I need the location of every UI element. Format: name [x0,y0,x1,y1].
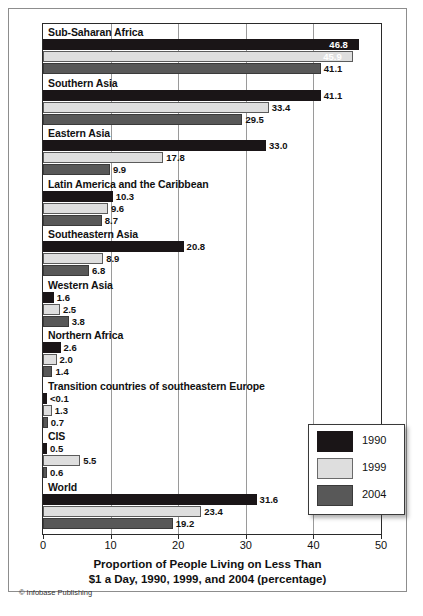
bar-row: 9.9 [43,164,381,175]
tick-label: 20 [172,539,184,551]
bar-row: 3.8 [43,316,381,327]
bar-group: Latin America and the Caribbean10.39.68.… [43,177,381,228]
bar-value-label: 41.1 [324,89,343,102]
bar-group: Northern Africa2.62.01.4 [43,328,381,379]
bar-row: 45.9 [43,51,381,62]
bar-value-label: 8.7 [105,214,118,227]
bar-1999 [43,51,353,62]
bar-2004 [43,467,47,478]
bar-value-label: 5.5 [83,454,96,467]
bar-row: 19.2 [43,518,381,529]
bar-value-label: 19.2 [176,517,195,530]
bar-value-label: 31.6 [260,493,279,506]
category-label: Southern Asia [48,76,118,90]
axis-title-line1: Proportion of People Living on Less Than [93,558,321,570]
bar-2004 [43,316,69,327]
bar-value-label: 6.8 [92,264,105,277]
bar-group: Southern Asia41.133.429.5 [43,76,381,127]
bar-row: 33.4 [43,102,381,113]
bar-row: 33.0 [43,140,381,151]
tick-label: 50 [375,539,387,551]
bar-2004 [43,518,173,529]
bar-1999 [43,102,269,113]
bar-value-label: 33.0 [269,139,288,152]
bar-1990 [43,241,184,252]
bar-row: 6.8 [43,265,381,276]
bar-value-label: 20.8 [187,240,206,253]
bar-row: 29.5 [43,114,381,125]
bar-1990 [43,393,47,404]
bar-row: 8.7 [43,215,381,226]
bar-2004 [43,366,52,377]
bar-row: <0.1 [43,393,381,404]
bar-row: 41.1 [43,90,381,101]
bar-2004 [43,164,110,175]
bar-1990 [43,39,359,50]
bar-1999 [43,455,80,466]
tick-label: 40 [307,539,319,551]
bar-row: 1.6 [43,292,381,303]
bar-value-label: 3.8 [72,315,85,328]
legend-label: 1999 [362,461,386,473]
bar-1990 [43,342,61,353]
bar-2004 [43,265,89,276]
tick-label: 0 [40,539,46,551]
category-label: Western Asia [48,278,113,292]
category-label: World [48,480,77,494]
category-label: Northern Africa [48,328,123,342]
legend-swatch [317,431,353,452]
bar-1990 [43,90,321,101]
bar-row: 17.8 [43,152,381,163]
chart-card: Sub-Saharan Africa46.845.941.1Southern A… [8,8,407,592]
bar-row: 8.9 [43,253,381,264]
category-label: CIS [48,429,65,443]
bar-1990 [43,140,266,151]
credit-text: © Infobase Publishing [19,588,92,597]
bar-row: 9.6 [43,203,381,214]
bar-1999 [43,354,57,365]
bar-1990 [43,191,113,202]
category-label: Sub-Saharan Africa [48,25,143,39]
bar-group: Western Asia1.62.53.8 [43,278,381,329]
bar-row: 1.3 [43,405,381,416]
tick-label: 30 [240,539,252,551]
bar-value-label: 1.4 [55,365,68,378]
bar-value-label: 0.6 [50,466,63,479]
legend-swatch [317,485,353,506]
bar-1990 [43,443,47,454]
bar-row: 20.8 [43,241,381,252]
axis-title-line2: $1 a Day, 1990, 1999, and 2004 (percenta… [9,572,406,587]
legend-swatch [317,458,353,479]
bar-value-label: 9.9 [113,163,126,176]
x-axis: 01020304050 [42,535,382,555]
category-label: Southeastern Asia [48,227,138,241]
axis-title: Proportion of People Living on Less Than… [9,557,406,587]
bar-1999 [43,253,103,264]
bar-2004 [43,417,48,428]
bar-group: Transition countries of southeastern Eur… [43,379,381,430]
plot-area: Sub-Saharan Africa46.845.941.1Southern A… [42,23,382,535]
bar-value-label: 0.5 [50,442,63,455]
bar-value-label: 29.5 [245,113,264,126]
legend-label: 1990 [362,434,386,446]
chart-page: Sub-Saharan Africa46.845.941.1Southern A… [0,0,423,616]
bar-value-label: 8.9 [106,252,119,265]
bar-value-label: 0.7 [51,416,64,429]
bar-value-label: 17.8 [166,151,185,164]
category-label: Latin America and the Caribbean [48,177,208,191]
bar-value-label: 41.1 [324,62,343,75]
bar-1990 [43,494,257,505]
bar-group: Eastern Asia33.017.89.9 [43,126,381,177]
bar-row: 46.8 [43,39,381,50]
bar-group: Sub-Saharan Africa46.845.941.1 [43,25,381,76]
bar-1999 [43,152,163,163]
bar-row: 2.5 [43,304,381,315]
bar-1999 [43,506,201,517]
tick-label: 10 [104,539,116,551]
bar-1999 [43,304,60,315]
bar-1990 [43,292,54,303]
bar-2004 [43,215,102,226]
bar-row: 1.4 [43,366,381,377]
legend-label: 2004 [362,488,386,500]
bar-group: Southeastern Asia20.88.96.8 [43,227,381,278]
